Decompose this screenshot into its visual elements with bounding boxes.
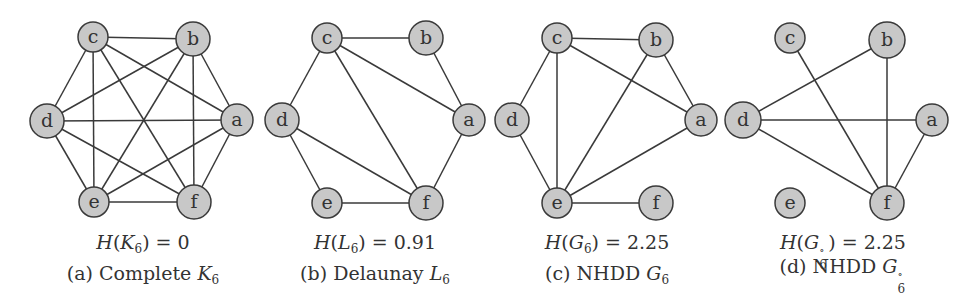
node-label: e xyxy=(551,191,562,213)
edge-a-c xyxy=(93,37,237,120)
node-label: d xyxy=(276,108,288,130)
node-e: e xyxy=(79,187,109,217)
node-a: a xyxy=(685,104,717,136)
graph-panel-a: abcdef xyxy=(30,22,253,219)
graph-panel-d: abcdef xyxy=(725,22,948,220)
node-a: a xyxy=(916,104,948,136)
node-label: c xyxy=(88,25,99,47)
graph-panel-c: abcdef xyxy=(495,23,717,220)
node-b: b xyxy=(869,22,905,58)
node-d: d xyxy=(30,104,64,138)
node-label: b xyxy=(420,26,432,48)
entropy-equation: H(L6) = 0.91 xyxy=(252,230,498,261)
subfigure-label: (c) NHDD G6 xyxy=(484,261,730,292)
node-label: e xyxy=(88,190,99,212)
edge-c-e xyxy=(93,37,94,202)
graph-figure: abcdefabcdefabcdefabcdef H(K6) = 0 (a) C… xyxy=(0,0,973,304)
node-c: c xyxy=(542,23,572,53)
node-f: f xyxy=(639,186,673,220)
edge-c-f xyxy=(327,38,426,203)
node-label: e xyxy=(321,191,332,213)
node-f: f xyxy=(409,186,443,220)
edge-d-f xyxy=(743,120,887,203)
node-b: b xyxy=(176,22,210,56)
subfigure-label: (a) Complete K6 xyxy=(20,261,266,292)
node-label: c xyxy=(552,26,563,48)
node-c: c xyxy=(312,23,342,53)
node-label: b xyxy=(187,27,199,49)
edge-b-f xyxy=(193,39,194,202)
node-label: a xyxy=(926,108,937,130)
entropy-equation: H(G6) = 2.25 xyxy=(484,230,730,261)
node-a: a xyxy=(221,104,253,136)
node-label: d xyxy=(41,109,53,131)
node-label: d xyxy=(506,108,518,130)
node-label: c xyxy=(785,26,796,48)
node-e: e xyxy=(542,188,572,218)
graph-panel-b: abcdef xyxy=(265,21,485,220)
edge-c-a xyxy=(557,38,701,120)
edge-d-f xyxy=(282,120,426,203)
node-e: e xyxy=(775,188,805,218)
node-d: d xyxy=(725,102,761,138)
node-label: a xyxy=(695,108,706,130)
caption-panel-c: H(G6) = 2.25 (c) NHDD G6 xyxy=(484,230,730,292)
subfigure-label: (b) Delaunay L6 xyxy=(252,261,498,292)
node-label: d xyxy=(737,108,749,130)
subfigure-label: (d) NHDD G∘6 xyxy=(720,254,966,278)
entropy-equation: H(K6) = 0 xyxy=(20,230,266,261)
node-label: c xyxy=(322,26,333,48)
edge-a-d xyxy=(47,120,237,121)
node-label: a xyxy=(231,108,242,130)
node-label: e xyxy=(784,191,795,213)
node-c: c xyxy=(775,23,805,53)
node-a: a xyxy=(453,104,485,136)
node-label: b xyxy=(881,28,893,50)
node-e: e xyxy=(312,188,342,218)
node-f: f xyxy=(870,186,904,220)
entropy-equation: H(G∘6) = 2.25 xyxy=(720,230,966,254)
node-f: f xyxy=(177,185,211,219)
node-b: b xyxy=(639,23,673,57)
node-d: d xyxy=(495,103,529,137)
node-label: a xyxy=(463,108,474,130)
node-b: b xyxy=(409,21,443,55)
edge-a-e xyxy=(557,120,701,203)
node-c: c xyxy=(78,22,108,52)
node-label: b xyxy=(650,28,662,50)
caption-panel-b: H(L6) = 0.91 (b) Delaunay L6 xyxy=(252,230,498,292)
edge-b-e xyxy=(557,40,656,203)
edge-d-f xyxy=(47,121,194,202)
caption-panel-a: H(K6) = 0 (a) Complete K6 xyxy=(20,230,266,292)
caption-panel-d: H(G∘6) = 2.25 (d) NHDD G∘6 xyxy=(720,230,966,278)
node-d: d xyxy=(265,103,299,137)
